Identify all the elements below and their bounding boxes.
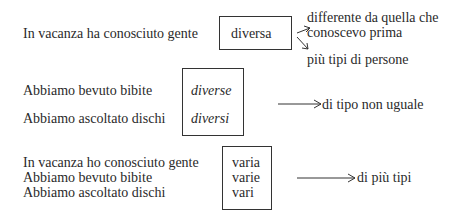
arrow-to-piu-tipi-persone-icon: [297, 37, 308, 49]
arrows-layer: [0, 0, 473, 224]
arrow-to-piu-tipi-icon: [297, 174, 355, 182]
arrow-to-tipo-non-uguale-icon: [278, 100, 321, 108]
arrow-to-differente-icon: [297, 26, 310, 33]
